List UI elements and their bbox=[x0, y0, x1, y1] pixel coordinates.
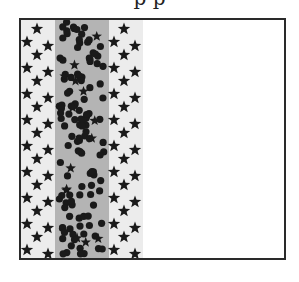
dot-icon bbox=[85, 213, 92, 220]
star-icon bbox=[65, 163, 76, 173]
star-icon bbox=[31, 49, 43, 61]
star-icon bbox=[118, 23, 130, 35]
star-icon bbox=[108, 140, 120, 152]
dot-icon bbox=[97, 151, 104, 158]
star-icon bbox=[118, 75, 130, 87]
star-icon bbox=[21, 244, 33, 256]
dot-icon bbox=[61, 229, 68, 236]
star-icon bbox=[21, 140, 33, 152]
markers-layer bbox=[21, 20, 284, 258]
dot-icon bbox=[90, 202, 97, 209]
star-icon bbox=[42, 170, 54, 182]
star-icon bbox=[42, 92, 54, 104]
star-icon bbox=[69, 60, 80, 70]
star-icon bbox=[118, 205, 130, 217]
dot-icon bbox=[95, 245, 102, 252]
star-icon bbox=[21, 88, 33, 100]
star-icon bbox=[129, 66, 141, 78]
dot-icon bbox=[81, 96, 88, 103]
star-icon bbox=[108, 36, 120, 48]
dot-icon bbox=[66, 213, 73, 220]
dot-icon bbox=[83, 111, 90, 118]
dot-icon bbox=[78, 183, 85, 190]
star-icon bbox=[31, 153, 43, 165]
star-icon bbox=[118, 127, 130, 139]
diagram-frame bbox=[19, 18, 286, 260]
star-icon bbox=[108, 114, 120, 126]
dot-icon bbox=[59, 34, 66, 41]
star-icon bbox=[81, 237, 91, 247]
star-icon bbox=[129, 170, 141, 182]
star-icon bbox=[118, 153, 130, 165]
dot-icon bbox=[76, 36, 83, 43]
star-icon bbox=[21, 166, 33, 178]
star-icon bbox=[129, 92, 141, 104]
star-icon bbox=[21, 192, 33, 204]
dot-icon bbox=[65, 111, 72, 118]
star-icon bbox=[129, 248, 141, 259]
star-icon bbox=[108, 166, 120, 178]
title-fragment: p p bbox=[0, 0, 299, 10]
dot-icon bbox=[97, 80, 104, 87]
star-icon bbox=[108, 218, 120, 230]
dot-icon bbox=[57, 159, 64, 166]
star-icon bbox=[31, 127, 43, 139]
star-icon bbox=[31, 205, 43, 217]
star-icon bbox=[31, 231, 43, 243]
star-icon bbox=[118, 179, 130, 191]
star-icon bbox=[21, 62, 33, 74]
star-icon bbox=[118, 231, 130, 243]
dot-icon bbox=[99, 94, 106, 101]
star-icon bbox=[42, 222, 54, 234]
star-icon bbox=[31, 101, 43, 113]
dot-icon bbox=[88, 182, 95, 189]
star-icon bbox=[118, 101, 130, 113]
dot-icon bbox=[65, 142, 72, 149]
dot-icon bbox=[61, 122, 68, 129]
dot-icon bbox=[92, 50, 99, 57]
star-icon bbox=[21, 114, 33, 126]
star-icon bbox=[108, 62, 120, 74]
dot-icon bbox=[94, 60, 101, 67]
star-icon bbox=[129, 118, 141, 130]
dot-icon bbox=[64, 90, 71, 97]
dot-icon bbox=[57, 109, 64, 116]
star-icon bbox=[42, 40, 54, 52]
dot-icon bbox=[82, 128, 89, 135]
star-icon bbox=[118, 49, 130, 61]
star-icon bbox=[31, 23, 43, 35]
star-icon bbox=[108, 88, 120, 100]
star-icon bbox=[129, 144, 141, 156]
dot-icon bbox=[81, 24, 88, 31]
dot-icon bbox=[100, 139, 107, 146]
star-icon bbox=[129, 196, 141, 208]
star-icon bbox=[92, 31, 103, 41]
star-icon bbox=[42, 248, 54, 259]
star-icon bbox=[21, 36, 33, 48]
star-icon bbox=[129, 40, 141, 52]
dot-icon bbox=[73, 26, 80, 33]
star-icon bbox=[42, 196, 54, 208]
dot-icon bbox=[68, 242, 75, 249]
star-icon bbox=[42, 118, 54, 130]
dot-icon bbox=[59, 57, 66, 64]
dot-icon bbox=[86, 222, 93, 229]
dot-icon bbox=[77, 250, 84, 257]
star-icon bbox=[108, 192, 120, 204]
star-icon bbox=[21, 218, 33, 230]
dot-icon bbox=[96, 187, 103, 194]
dot-icon bbox=[98, 220, 105, 227]
dot-icon bbox=[76, 148, 83, 155]
dot-icon bbox=[64, 172, 71, 179]
dot-icon bbox=[71, 116, 78, 123]
dot-icon bbox=[87, 58, 94, 65]
dot-icon bbox=[76, 107, 83, 114]
dot-icon bbox=[76, 191, 83, 198]
dot-icon bbox=[68, 133, 75, 140]
dot-icon bbox=[87, 191, 94, 198]
dot-icon bbox=[74, 44, 81, 51]
star-icon bbox=[108, 244, 120, 256]
star-icon bbox=[31, 75, 43, 87]
dot-icon bbox=[88, 168, 95, 175]
star-icon bbox=[129, 222, 141, 234]
